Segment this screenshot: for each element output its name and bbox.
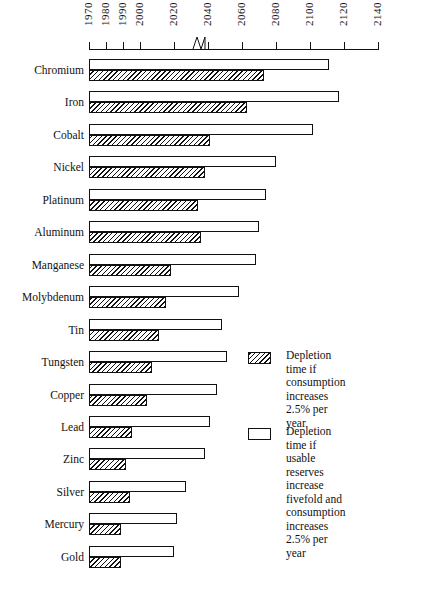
bar-row: Cobalt [0, 122, 423, 152]
category-label-molybdenum: Molybdenum [0, 290, 84, 304]
bar-hatched-lead [89, 427, 132, 438]
bar-open-gold [89, 546, 174, 557]
axis-tick [174, 42, 175, 49]
bar-row: Nickel [0, 154, 423, 184]
axis-tick [106, 42, 107, 49]
axis-line [89, 49, 379, 50]
category-label-iron: Iron [0, 95, 84, 109]
bar-hatched-iron [89, 102, 247, 113]
axis-tick-label: 2080 [270, 2, 281, 26]
axis-break-icon [192, 36, 208, 50]
x-axis: 1970198019902000202020402060208021002120… [0, 0, 423, 52]
category-label-lead: Lead [0, 420, 84, 434]
category-label-platinum: Platinum [0, 193, 84, 207]
bar-hatched-cobalt [89, 135, 210, 146]
axis-tick [242, 42, 243, 49]
bar-hatched-nickel [89, 167, 205, 178]
category-label-mercury: Mercury [0, 517, 84, 531]
axis-tick-label: 2060 [236, 2, 247, 26]
axis-tick-label: 2040 [202, 2, 213, 26]
bar-open-nickel [89, 156, 276, 167]
bar-hatched-zinc [89, 459, 126, 470]
bar-open-tungsten [89, 351, 227, 362]
bar-open-platinum [89, 189, 266, 200]
category-label-tin: Tin [0, 323, 84, 337]
bar-row: Aluminum [0, 219, 423, 249]
bar-hatched-platinum [89, 200, 198, 211]
bar-open-silver [89, 481, 186, 492]
category-label-gold: Gold [0, 550, 84, 564]
bar-open-zinc [89, 448, 205, 459]
category-label-tungsten: Tungsten [0, 355, 84, 369]
bar-open-molybdenum [89, 286, 239, 297]
category-label-aluminum: Aluminum [0, 225, 84, 239]
axis-tick-label: 2100 [304, 2, 315, 26]
bar-row: Manganese [0, 252, 423, 282]
bar-row: Gold [0, 544, 423, 574]
legend-swatch-hatched [248, 352, 271, 364]
bar-hatched-molybdenum [89, 297, 166, 308]
axis-tick [89, 42, 90, 49]
bar-row: Iron [0, 89, 423, 119]
legend-label-open: Depletion time if usable reserves increa… [286, 425, 345, 560]
category-label-chromium: Chromium [0, 63, 84, 77]
bar-row: Silver [0, 479, 423, 509]
bar-open-lead [89, 416, 210, 427]
bar-row: Tin [0, 317, 423, 347]
axis-tick [378, 42, 379, 49]
category-label-nickel: Nickel [0, 160, 84, 174]
bar-open-copper [89, 384, 217, 395]
bar-open-manganese [89, 254, 256, 265]
bar-hatched-copper [89, 395, 147, 406]
axis-tick [310, 42, 311, 49]
bar-row: Lead [0, 414, 423, 444]
bar-row: Platinum [0, 187, 423, 217]
bar-row: Tungsten [0, 349, 423, 379]
legend-label-hatched: Depletion time if consumption increases … [286, 349, 345, 430]
category-label-copper: Copper [0, 388, 84, 402]
category-label-silver: Silver [0, 485, 84, 499]
bar-hatched-mercury [89, 524, 121, 535]
axis-tick [123, 42, 124, 49]
axis-tick-label: 2020 [168, 2, 179, 26]
axis-tick [276, 42, 277, 49]
bar-open-cobalt [89, 124, 313, 135]
bar-row: Chromium [0, 57, 423, 87]
bar-hatched-chromium [89, 70, 264, 81]
bar-row: Zinc [0, 446, 423, 476]
bar-open-tin [89, 319, 222, 330]
depletion-time-chart: 1970198019902000202020402060208021002120… [0, 0, 423, 590]
category-label-cobalt: Cobalt [0, 128, 84, 142]
bar-hatched-aluminum [89, 232, 201, 243]
legend-swatch-open [248, 428, 271, 440]
bar-row: Molybdenum [0, 284, 423, 314]
bar-open-aluminum [89, 221, 259, 232]
category-label-manganese: Manganese [0, 258, 84, 272]
bar-hatched-tin [89, 330, 159, 341]
bar-row: Mercury [0, 511, 423, 541]
bar-hatched-tungsten [89, 362, 152, 373]
bar-open-mercury [89, 513, 177, 524]
axis-tick-label: 2120 [338, 2, 349, 26]
bar-hatched-manganese [89, 265, 171, 276]
axis-tick [344, 42, 345, 49]
category-label-zinc: Zinc [0, 452, 84, 466]
bar-hatched-gold [89, 557, 121, 568]
bar-open-iron [89, 91, 339, 102]
axis-tick [140, 42, 141, 49]
axis-tick-label: 2140 [372, 2, 383, 26]
axis-tick-label: 1990 [117, 2, 128, 26]
axis-tick-label: 1970 [83, 2, 94, 26]
axis-tick-label: 2000 [134, 2, 145, 26]
axis-tick [208, 42, 209, 49]
bar-row: Copper [0, 382, 423, 412]
axis-tick-label: 1980 [100, 2, 111, 26]
bar-hatched-silver [89, 492, 130, 503]
bar-open-chromium [89, 59, 329, 70]
